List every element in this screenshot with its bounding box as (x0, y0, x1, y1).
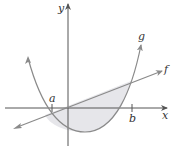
x-axis-label: x (162, 109, 169, 122)
curve-g-label: g (138, 30, 145, 43)
area-between-curves-diagram: y x a b g f (0, 0, 171, 149)
tick-b-label: b (129, 112, 136, 125)
y-axis-label: y (57, 2, 65, 15)
line-f-label: f (163, 63, 170, 76)
tick-a-label: a (49, 92, 56, 105)
curve-g-arrow-left (25, 56, 31, 64)
shaded-region (45, 81, 131, 132)
